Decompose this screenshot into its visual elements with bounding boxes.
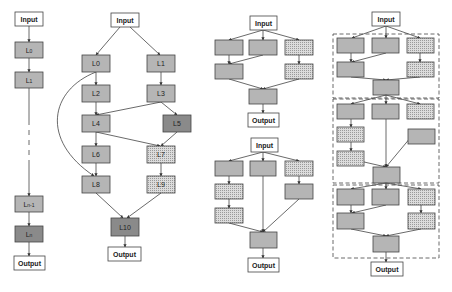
layer-node-l1: L1 — [15, 72, 43, 88]
layer-node-l6: L6 — [82, 146, 110, 163]
cell-node — [215, 161, 243, 176]
cell-node — [372, 104, 399, 119]
svg-text:L8: L8 — [92, 181, 100, 188]
cell-node — [408, 189, 435, 205]
input-node: Input — [250, 16, 277, 30]
layer-node-l10: L10 — [111, 218, 139, 236]
diagram-branched: Input L0 L1 L2 L3 L4 L5 L6 L7 L8 L9 L10 … — [57, 13, 191, 261]
svg-text:Input: Input — [255, 20, 273, 28]
output-node: Output — [14, 256, 45, 270]
layer-node-ln: Ln — [15, 226, 43, 242]
svg-text:L3: L3 — [157, 90, 165, 97]
input-node: Input — [15, 12, 43, 26]
diagram-cell-a: Input Output — [215, 16, 313, 127]
cell-node — [337, 38, 364, 53]
input-node: Input — [372, 12, 400, 26]
cell-node — [215, 208, 243, 223]
svg-text:Input: Input — [377, 16, 395, 24]
cell-node — [215, 184, 243, 199]
input-node: Input — [251, 138, 278, 152]
cell-node — [337, 62, 364, 77]
layer-node-l3: L3 — [147, 85, 175, 102]
output-node: Output — [371, 262, 403, 276]
cell-node — [408, 213, 435, 229]
layer-node-l2: L2 — [82, 85, 110, 102]
svg-text:Output: Output — [252, 262, 276, 270]
diagram-chain: Input L0 L1 Ln-1 Ln Output — [14, 12, 45, 270]
cell-node — [372, 38, 399, 53]
svg-text:Ln: Ln — [26, 231, 33, 239]
cell-node — [337, 213, 364, 229]
layer-node-l0: L0 — [82, 55, 110, 72]
svg-text:Output: Output — [252, 117, 276, 125]
cell-node — [285, 40, 313, 55]
output-node: Output — [108, 247, 141, 261]
svg-text:L1: L1 — [26, 77, 33, 85]
input-label: Input — [20, 16, 38, 24]
svg-text:L0: L0 — [92, 60, 100, 67]
svg-text:L4: L4 — [92, 120, 100, 127]
svg-text:L0: L0 — [26, 47, 33, 55]
cell-node — [337, 104, 364, 119]
svg-text:Ln-1: Ln-1 — [23, 201, 34, 209]
input-node: Input — [111, 13, 139, 27]
svg-text:L2: L2 — [92, 90, 100, 97]
cell-node — [373, 167, 400, 183]
architecture-diagrams: Input L0 L1 Ln-1 Ln Output — [0, 0, 452, 292]
layer-node-l7: L7 — [147, 146, 175, 163]
output-node: Output — [248, 258, 279, 272]
svg-text:Input: Input — [116, 17, 134, 25]
cell-node — [372, 189, 399, 205]
cell-node — [337, 127, 364, 142]
layer-node-l4: L4 — [82, 115, 110, 132]
cell-node — [407, 38, 434, 53]
cell-node — [215, 40, 243, 55]
cell-node — [250, 232, 277, 248]
layer-node-l0: L0 — [15, 42, 43, 58]
cell-node — [337, 189, 364, 205]
output-label: Output — [18, 260, 42, 268]
cell-node — [408, 129, 435, 144]
diagram-stacked-cells: Input — [333, 12, 439, 276]
cell-node — [250, 161, 276, 176]
svg-text:L6: L6 — [92, 151, 100, 158]
layer-node-l1: L1 — [147, 55, 175, 72]
cell-node — [215, 64, 243, 79]
cell-node — [407, 104, 434, 119]
svg-text:L10: L10 — [119, 224, 131, 231]
svg-text:L9: L9 — [157, 181, 165, 188]
svg-text:L7: L7 — [157, 151, 165, 158]
cell-node — [249, 89, 277, 104]
cell-node — [407, 62, 434, 77]
layer-node-ln-1: Ln-1 — [15, 196, 43, 212]
layer-node-l5: L5 — [163, 115, 191, 132]
cell-node — [337, 151, 364, 166]
svg-text:Output: Output — [376, 266, 400, 274]
cell-node — [249, 40, 277, 55]
cell-node — [285, 64, 313, 79]
svg-text:Output: Output — [113, 251, 137, 259]
svg-text:L5: L5 — [173, 120, 181, 127]
cell-node — [285, 184, 313, 199]
cell-node — [373, 236, 399, 252]
layer-node-l8: L8 — [82, 176, 110, 193]
cell-node — [373, 80, 399, 95]
svg-text:Input: Input — [256, 142, 274, 150]
svg-text:L1: L1 — [157, 60, 165, 67]
cell-node — [285, 161, 313, 176]
layer-node-l9: L9 — [147, 176, 175, 193]
output-node: Output — [248, 113, 279, 127]
diagram-cell-b: Input Output — [215, 138, 313, 272]
